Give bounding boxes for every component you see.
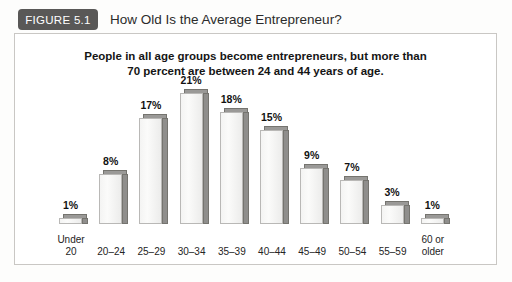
bar-side-face bbox=[203, 93, 209, 224]
axis-tick-label-line-1: 30–34 bbox=[170, 246, 214, 258]
axis-tick-label-line-1: Under bbox=[49, 234, 93, 246]
figure-title: How Old Is the Average Entrepreneur? bbox=[110, 12, 342, 27]
axis-tick-label-line-1: 45–49 bbox=[290, 246, 334, 258]
bar-7 bbox=[300, 162, 329, 224]
chart-frame: People in all age groups become entrepre… bbox=[14, 33, 497, 265]
axis-tick-label: 25–29 bbox=[129, 246, 173, 258]
bar-value-label: 8% bbox=[93, 155, 128, 167]
bar-chart-plot: 1%Under208%20–2417%25–2921%30–3418%35–39… bbox=[15, 34, 498, 266]
axis-tick-label-line-1: 25–29 bbox=[129, 246, 173, 258]
axis-tick-label: 20–24 bbox=[89, 246, 133, 258]
bar-front-face bbox=[260, 130, 283, 224]
bar-value-label: 1% bbox=[415, 199, 450, 211]
axis-tick-label: 55–59 bbox=[371, 246, 415, 258]
bar-value-label: 15% bbox=[254, 111, 289, 123]
bar-side-face bbox=[122, 174, 128, 224]
axis-tick-label-line-2: 20 bbox=[49, 246, 93, 258]
bar-5 bbox=[220, 106, 249, 225]
bar-side-face bbox=[404, 205, 410, 224]
bar-front-face bbox=[139, 118, 162, 224]
axis-tick-label: 50–54 bbox=[330, 246, 374, 258]
axis-tick-label: Under20 bbox=[49, 234, 93, 258]
bar-value-label: 1% bbox=[53, 199, 88, 211]
bar-front-face bbox=[59, 218, 82, 224]
bar-value-label: 18% bbox=[214, 93, 249, 105]
bar-front-face bbox=[340, 180, 363, 224]
bar-side-face bbox=[162, 118, 168, 224]
bar-value-label: 3% bbox=[375, 186, 410, 198]
bar-side-face bbox=[243, 112, 249, 225]
axis-tick-label-line-1: 35–39 bbox=[210, 246, 254, 258]
bar-value-label: 7% bbox=[334, 161, 369, 173]
bar-value-label: 21% bbox=[174, 74, 209, 86]
axis-tick-label-line-1: 20–24 bbox=[89, 246, 133, 258]
bar-value-label: 17% bbox=[133, 99, 168, 111]
axis-tick-label-line-2: older bbox=[411, 246, 455, 258]
axis-tick-label: 35–39 bbox=[210, 246, 254, 258]
bar-front-face bbox=[180, 93, 203, 224]
bar-1 bbox=[59, 212, 88, 224]
bar-front-face bbox=[421, 218, 444, 224]
figure-page: FIGURE 5.1 How Old Is the Average Entrep… bbox=[0, 0, 512, 282]
axis-tick-label-line-1: 60 or bbox=[411, 234, 455, 246]
bar-front-face bbox=[300, 168, 323, 224]
bar-side-face bbox=[323, 168, 329, 224]
axis-tick-label-line-1: 50–54 bbox=[330, 246, 374, 258]
bar-side-face bbox=[283, 130, 289, 224]
bar-3 bbox=[139, 112, 168, 224]
bar-8 bbox=[340, 174, 369, 224]
bar-9 bbox=[381, 199, 410, 224]
axis-tick-label-line-1: 40–44 bbox=[250, 246, 294, 258]
axis-tick-label-line-1: 55–59 bbox=[371, 246, 415, 258]
axis-tick-label: 45–49 bbox=[290, 246, 334, 258]
bar-side-face bbox=[363, 180, 369, 224]
axis-tick-label: 40–44 bbox=[250, 246, 294, 258]
bar-2 bbox=[99, 168, 128, 224]
bar-front-face bbox=[99, 174, 122, 224]
bar-front-face bbox=[220, 112, 243, 225]
bar-front-face bbox=[381, 205, 404, 224]
axis-tick-label: 30–34 bbox=[170, 246, 214, 258]
bar-value-label: 9% bbox=[294, 149, 329, 161]
bar-4 bbox=[180, 87, 209, 224]
axis-tick-label: 60 orolder bbox=[411, 234, 455, 258]
bar-10 bbox=[421, 212, 450, 224]
figure-number-badge: FIGURE 5.1 bbox=[18, 9, 98, 30]
bar-6 bbox=[260, 124, 289, 224]
